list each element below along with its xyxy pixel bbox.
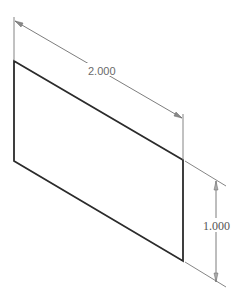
width-dimension-label[interactable]: 2.000 (88, 65, 116, 77)
width-arrow-right-icon (174, 112, 182, 118)
height-arrow-top-icon (214, 181, 218, 190)
height-extension-line-bottom (185, 262, 226, 287)
rectangle-face-outline[interactable] (14, 61, 183, 261)
isometric-drawing: 2.000 1.000 (0, 0, 244, 301)
width-arrow-left-icon (15, 21, 23, 27)
height-dimension-label[interactable]: 1.000 (203, 219, 230, 233)
height-extension-line-top (185, 161, 226, 186)
height-arrow-bottom-icon (214, 273, 218, 282)
